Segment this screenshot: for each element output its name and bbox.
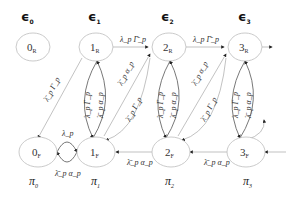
node-2r: 2R — [152, 33, 186, 61]
level-label-2: ϵ2 — [161, 9, 174, 25]
level-label-3: ϵ3 — [238, 9, 251, 25]
node-2f: 2F — [152, 137, 190, 167]
prob-label-1: π1 — [91, 174, 100, 189]
prob-label-2: π2 — [165, 174, 174, 189]
node-0r: 0R — [16, 33, 50, 61]
level-label-0: ϵ0 — [21, 9, 34, 25]
node-1r: 1R — [79, 33, 113, 61]
loop-label-1-up: λ_p Γ_p — [83, 92, 92, 119]
node-0f: 0F — [19, 137, 57, 167]
loop-label-2-up: λ_p Γ_p — [156, 92, 165, 119]
loop-label-2-down: λ̄_p α_p — [169, 92, 178, 119]
node-3r: 3R — [228, 33, 262, 61]
edge-label-2r-3r: λ_p Γ̄_p — [192, 35, 219, 44]
edge-label-2f-1f: λ̄_p α_p — [126, 158, 153, 167]
edge-label-1f-2r: λ̄_p α_p — [115, 60, 135, 88]
prob-label-3: π3 — [243, 174, 252, 189]
edge-label-1r-2r: λ_p Γ̄_p — [119, 35, 146, 44]
loop-label-3-down: λ̄_p α_p — [244, 92, 253, 119]
node-3f: 3F — [227, 137, 265, 167]
prob-label-0: π0 — [29, 174, 38, 189]
node-1f: 1F — [77, 137, 115, 167]
edge-label-0f-1f: λ_p — [61, 129, 73, 138]
loop-label-3-up: λ_p Γ_p — [231, 92, 240, 119]
edge-0f-1f — [57, 142, 77, 152]
markov-chain-diagram: ϵ0 ϵ1 ϵ2 ϵ3 λ_p Γ̄_p λ_p Γ̄_p λ̄_p Γ_p λ… — [0, 0, 301, 198]
level-label-1: ϵ1 — [88, 9, 101, 25]
edge-1f-0f — [57, 152, 77, 162]
edge-label-2f-3r: λ̄_p α_p — [189, 60, 209, 88]
edge-label-1f-0f: λ̄_p α_p — [54, 169, 81, 178]
edge-label-3r-2f: λ̄_p Γ_p — [198, 96, 219, 124]
edge-label-2r-1f: λ̄_p Γ_p — [123, 96, 144, 124]
edge-label-3f-2f: λ̄_p α_p — [203, 158, 230, 167]
loop-label-1-down: λ̄_p α_p — [96, 92, 105, 119]
